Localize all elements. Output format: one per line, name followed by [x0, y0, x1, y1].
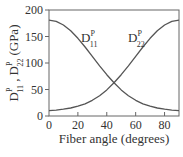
y-tick-label: 200	[25, 3, 43, 17]
y-tick-label: 100	[25, 56, 43, 70]
svg-text:DP11 ,DP22(GPa): DP11 ,DP22(GPa)	[5, 25, 25, 102]
y-tick-label: 150	[25, 30, 43, 44]
plot-frame	[49, 10, 179, 116]
x-tick-label: 0	[46, 118, 52, 132]
y-tick-label: 0	[37, 109, 43, 123]
x-tick-label: 20	[72, 118, 84, 132]
chart-svg: 050100150200 020406080 DP11 DP22 Fiber a…	[0, 0, 183, 157]
y-tick-label: 50	[31, 83, 43, 97]
chart: 050100150200 020406080 DP11 DP22 Fiber a…	[0, 0, 183, 157]
series-label-d22: DP22	[128, 29, 145, 49]
series-line-d22	[49, 20, 179, 111]
series-line-d11	[49, 20, 179, 111]
x-tick-label: 80	[159, 118, 171, 132]
y-axis-ticks: 050100150200	[25, 3, 49, 123]
x-tick-label: 40	[101, 118, 113, 132]
series-lines	[49, 20, 179, 111]
y-axis-label: DP11 ,DP22(GPa)	[5, 25, 25, 102]
x-tick-label: 60	[130, 118, 142, 132]
x-axis-ticks: 020406080	[46, 112, 171, 132]
x-axis-label: Fiber angle (degrees)	[59, 131, 169, 146]
